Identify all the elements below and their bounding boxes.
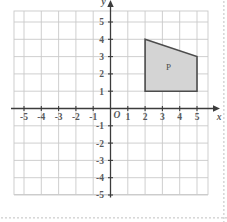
edge-dot (73, 217, 75, 219)
edge-dot (223, 109, 225, 111)
coordinate-figure: P -5-4-3-2-11234554321-1-2-3-4-5 x y O (0, 0, 227, 222)
edge-dot (61, 217, 63, 219)
edge-dot (17, 217, 19, 219)
edge-dot (223, 141, 225, 143)
x-tick-label: -3 (55, 112, 63, 122)
edge-dot (223, 9, 225, 11)
edge-dot (223, 165, 225, 167)
y-tick-label: 2 (99, 69, 104, 79)
edge-dot (93, 217, 95, 219)
y-axis-arrow-icon (107, 0, 113, 7)
x-tick-label: -4 (37, 112, 45, 122)
edge-dot (223, 57, 225, 59)
edge-dot (161, 217, 163, 219)
edge-dot (223, 161, 225, 163)
edge-dot (177, 217, 179, 219)
y-tick-label: 4 (99, 35, 104, 45)
edge-dot (223, 101, 225, 103)
shape-layer: P (145, 39, 197, 91)
edge-dot (9, 217, 11, 219)
edge-dot (5, 217, 7, 219)
edge-dot (53, 217, 55, 219)
edge-dot (197, 217, 199, 219)
edge-dot (223, 77, 225, 79)
edge-dot (205, 217, 207, 219)
edge-dot (223, 65, 225, 67)
origin-label: O (114, 110, 121, 120)
edge-dot (223, 41, 225, 43)
edge-dot (223, 53, 225, 55)
edge-dot (1, 217, 3, 219)
edge-dot (57, 217, 59, 219)
edge-dot (165, 217, 167, 219)
edge-dot (85, 217, 87, 219)
edge-dot (223, 97, 225, 99)
edge-dot (223, 49, 225, 51)
edge-dot (173, 217, 175, 219)
x-tick-label: -5 (20, 112, 28, 122)
edge-dot (29, 217, 31, 219)
edge-dot (223, 169, 225, 171)
edge-dot (225, 217, 227, 219)
edge-dot (223, 121, 225, 123)
edge-dot (49, 217, 51, 219)
edge-dot (137, 217, 139, 219)
edge-dot (223, 209, 225, 211)
edge-dot (223, 69, 225, 71)
edge-dot (41, 217, 43, 219)
edge-dot (223, 21, 225, 23)
edge-dot (223, 13, 225, 15)
edge-dot (201, 217, 203, 219)
edge-dot (101, 217, 103, 219)
edge-dot (105, 217, 107, 219)
edge-dot (223, 1, 225, 3)
edge-dot (25, 217, 27, 219)
edge-dot (181, 217, 183, 219)
edge-dot (223, 61, 225, 63)
edge-dot (223, 153, 225, 155)
edge-dot (125, 217, 127, 219)
edge-dot (97, 217, 99, 219)
edge-dot (223, 37, 225, 39)
edge-dot (223, 193, 225, 195)
y-tick-label: 1 (99, 87, 104, 97)
edge-dot (223, 113, 225, 115)
edge-dot (69, 217, 71, 219)
edge-dot (223, 217, 225, 219)
x-tick-label: 5 (195, 112, 200, 122)
y-tick-label: -5 (96, 190, 104, 200)
edge-dot (223, 117, 225, 119)
edge-dot (217, 217, 219, 219)
edge-dot (133, 217, 135, 219)
edge-dot (223, 17, 225, 19)
edge-dot (65, 217, 67, 219)
x-tick-label: -2 (72, 112, 80, 122)
y-tick-label: -3 (96, 156, 104, 166)
edge-dot (223, 25, 225, 27)
shape-label-p: P (166, 62, 171, 72)
edge-dot (223, 189, 225, 191)
edge-dot (13, 217, 15, 219)
edge-dot (223, 205, 225, 207)
y-tick-label: 5 (99, 17, 104, 27)
edge-dot (149, 217, 151, 219)
edge-dot (189, 217, 191, 219)
axes (11, 0, 220, 198)
edge-dot (223, 157, 225, 159)
edge-dot (223, 33, 225, 35)
edge-dot (223, 45, 225, 47)
x-tick-label: 4 (177, 112, 182, 122)
edge-dot (223, 81, 225, 83)
edge-dot (223, 5, 225, 7)
edge-dot (81, 217, 83, 219)
edge-dot (45, 217, 47, 219)
x-tick-label: 3 (160, 112, 165, 122)
y-tick-label: -4 (96, 173, 104, 183)
edge-dot (223, 93, 225, 95)
y-axis-label: y (100, 0, 106, 7)
edge-dot (37, 217, 39, 219)
edge-dot (223, 89, 225, 91)
edge-dot (185, 217, 187, 219)
y-tick-label: -1 (96, 121, 104, 131)
edge-dot (223, 149, 225, 151)
